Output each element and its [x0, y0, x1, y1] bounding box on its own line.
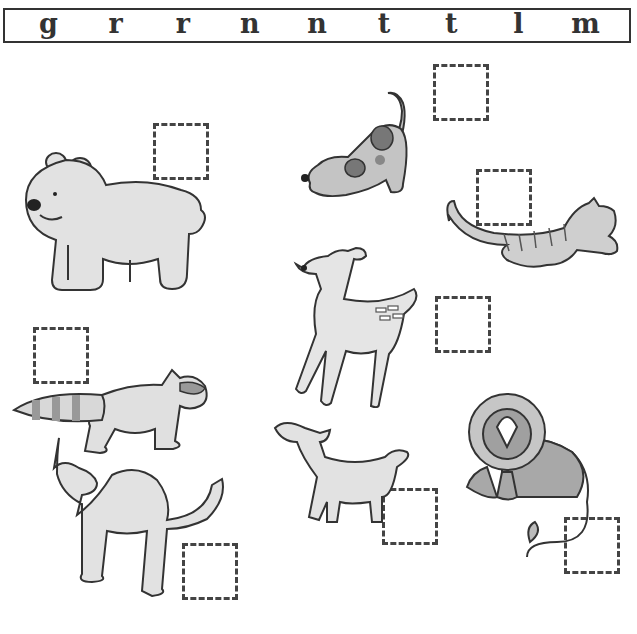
lamb-icon — [270, 418, 410, 542]
letter-tile[interactable]: t — [364, 10, 404, 37]
dog-icon — [300, 88, 430, 222]
letter-tile[interactable]: t — [431, 10, 471, 37]
letter-tile[interactable]: g — [29, 10, 69, 37]
lion-icon — [462, 392, 602, 556]
letter-tile[interactable]: r — [96, 10, 136, 37]
raccoon-icon — [12, 355, 212, 454]
bear-icon — [22, 150, 197, 309]
letter-tile[interactable]: n — [297, 10, 337, 37]
cat-icon — [444, 196, 619, 295]
letter-tile[interactable]: n — [230, 10, 270, 37]
answer-box-dog[interactable] — [433, 64, 489, 121]
letter-tile[interactable]: l — [498, 10, 538, 37]
letter-tile[interactable]: r — [163, 10, 203, 37]
camel-icon — [44, 458, 224, 632]
deer-icon — [298, 246, 438, 420]
letter-tile[interactable]: m — [565, 10, 605, 37]
answer-box-deer[interactable] — [435, 296, 491, 353]
letter-bank: g r r n n t t l m — [3, 8, 631, 43]
